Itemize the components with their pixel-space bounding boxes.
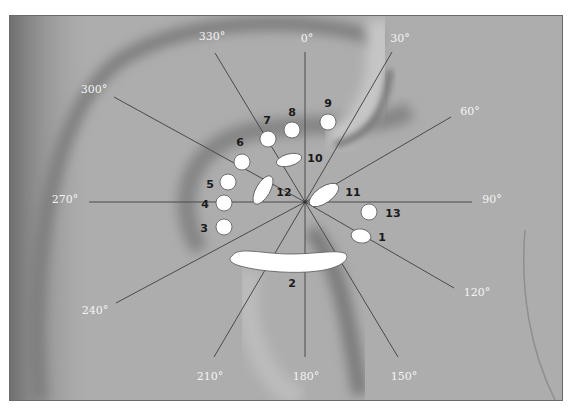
angle-label-30: 30° [390, 32, 410, 45]
marker-3 [216, 219, 232, 235]
marker-6 [234, 154, 250, 170]
marker-label-9: 9 [324, 97, 332, 110]
marker-label-5: 5 [206, 178, 214, 191]
marker-label-11: 11 [345, 186, 360, 199]
marker-label-12: 12 [276, 186, 291, 199]
marker-label-4: 4 [201, 198, 209, 211]
ray-origin [303, 200, 307, 204]
marker-label-8: 8 [288, 106, 296, 119]
angle-label-180: 180° [293, 370, 320, 383]
marker-label-7: 7 [263, 114, 271, 127]
marker-4 [216, 195, 232, 211]
marker-label-3: 3 [200, 222, 208, 235]
angle-label-270: 270° [52, 193, 79, 206]
marker-label-1: 1 [378, 231, 386, 244]
marker-8 [284, 122, 300, 138]
angle-label-210: 210° [197, 370, 224, 383]
marker-7 [260, 131, 276, 147]
marker-5 [220, 174, 236, 190]
angle-label-240: 240° [82, 304, 109, 317]
angle-label-60: 60° [460, 105, 480, 118]
angle-label-330: 330° [199, 30, 226, 43]
marker-label-10: 10 [307, 152, 323, 165]
angle-label-120: 120° [464, 286, 491, 299]
angle-label-300: 300° [81, 83, 108, 96]
marker-13 [361, 204, 377, 220]
ear-diagram: 0°30°60°90°120°150°180°210°240°270°300°3… [0, 0, 575, 412]
ear-diagram-svg: 0°30°60°90°120°150°180°210°240°270°300°3… [0, 0, 575, 412]
angle-label-0: 0° [301, 32, 314, 45]
marker-label-6: 6 [236, 136, 244, 149]
ear-photo [9, 15, 563, 401]
angle-label-90: 90° [482, 193, 502, 206]
marker-label-2: 2 [288, 277, 296, 290]
marker-label-13: 13 [385, 207, 400, 220]
marker-9 [320, 114, 336, 130]
angle-label-150: 150° [391, 370, 418, 383]
